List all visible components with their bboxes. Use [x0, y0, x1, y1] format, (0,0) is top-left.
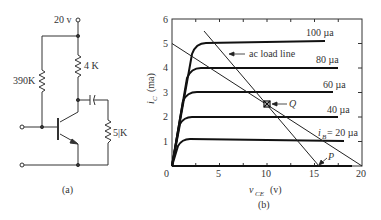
supply-terminal	[76, 18, 80, 22]
junction-dot	[40, 125, 43, 128]
curve-label-20: i B = 20 µa	[318, 127, 358, 141]
x-tick: 5	[216, 168, 221, 179]
arrow-icon	[272, 102, 277, 106]
collector-resistor	[75, 55, 81, 77]
y-tick: 1	[163, 136, 168, 147]
y-tick: 0	[164, 168, 169, 179]
svg-text:CE: CE	[255, 190, 265, 198]
figure: 20 v 390K 4 K 5|K (a)	[0, 0, 381, 220]
junction-dot	[76, 163, 79, 166]
ground-terminal	[20, 163, 24, 167]
emitter-arrow-icon	[70, 139, 78, 144]
supply-label: 20 v	[54, 14, 72, 25]
circuit-caption: (a)	[62, 184, 73, 196]
x-tick: 10	[261, 168, 271, 179]
svg-text:C: C	[151, 96, 159, 101]
load-resistor	[105, 120, 111, 143]
q-point	[264, 101, 270, 107]
curve-ib-20	[172, 139, 344, 166]
y-tick: 2	[163, 111, 168, 122]
arrow-icon	[229, 52, 234, 56]
circuit-labels: 20 v 390K 4 K 5|K (a)	[13, 14, 128, 196]
svg-text:(v): (v)	[270, 184, 282, 196]
y-tick: 4	[163, 62, 168, 73]
curve-ib-60	[172, 92, 333, 166]
svg-text:i: i	[318, 127, 321, 138]
curve-ib-100	[172, 41, 325, 166]
y-tick: 5	[163, 38, 168, 49]
curve-label-80: 80 µa	[316, 54, 339, 65]
bias-resistor-label: 390K	[13, 75, 36, 86]
p-label: P	[327, 151, 334, 162]
chart-labels: 6 5 4 3 2 1 0 5 10 15 20 i C (ma) v CE (…	[145, 14, 366, 211]
chart-caption: (b)	[258, 199, 270, 211]
curve-label-40: 40 µa	[327, 104, 350, 115]
x-axis-label: v CE (v)	[249, 184, 282, 198]
x-tick: 20	[356, 168, 366, 179]
y-tick: 3	[163, 87, 168, 98]
svg-text:v: v	[249, 184, 254, 195]
load-resistor-label: 5|K	[113, 127, 128, 138]
ac-load-line-label: ac load line	[249, 48, 296, 59]
input-terminal	[20, 125, 24, 129]
svg-text:= 20 µa: = 20 µa	[327, 127, 358, 138]
q-label: Q	[289, 98, 297, 109]
curve-label-100: 100 µa	[306, 27, 334, 38]
y-tick: 6	[163, 14, 168, 25]
svg-text:(ma): (ma)	[145, 73, 157, 92]
curve-label-60: 60 µa	[323, 79, 346, 90]
y-axis-label: i C (ma)	[145, 73, 159, 104]
x-tick: 15	[309, 168, 319, 179]
circuit-diagram	[20, 18, 111, 167]
collector-lead	[60, 112, 78, 122]
collector-resistor-label: 4 K	[84, 60, 100, 71]
bias-resistor	[39, 70, 45, 92]
